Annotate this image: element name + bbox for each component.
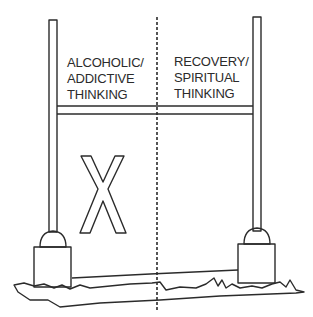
label-line: THINKING bbox=[67, 87, 144, 103]
label-line: RECOVERY/ bbox=[174, 54, 249, 70]
right-post bbox=[253, 17, 261, 231]
left-post bbox=[49, 20, 57, 232]
left-side-label: ALCOHOLIC/ ADDICTIVE THINKING bbox=[67, 55, 144, 103]
x-mark-icon bbox=[80, 156, 126, 233]
label-line: THINKING bbox=[174, 86, 249, 102]
goalpost-drawing bbox=[0, 0, 313, 317]
right-base bbox=[238, 228, 275, 283]
goalpost-diagram: ALCOHOLIC/ ADDICTIVE THINKING RECOVERY/ … bbox=[0, 0, 313, 317]
crossbar bbox=[57, 106, 253, 114]
label-line: ADDICTIVE bbox=[67, 71, 144, 87]
right-side-label: RECOVERY/ SPIRITUAL THINKING bbox=[174, 54, 249, 102]
label-line: SPIRITUAL bbox=[174, 70, 249, 86]
label-line: ALCOHOLIC/ bbox=[67, 55, 144, 71]
left-base bbox=[34, 231, 71, 287]
ground bbox=[14, 270, 304, 307]
